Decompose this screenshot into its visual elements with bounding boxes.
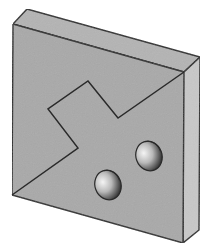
diagram-canvas bbox=[0, 0, 205, 251]
block-drawing bbox=[0, 0, 205, 251]
side-face bbox=[183, 57, 200, 243]
